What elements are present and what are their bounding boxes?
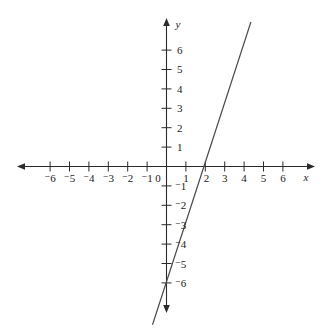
y-axis: [163, 18, 170, 313]
y-axis-name-label: y: [175, 18, 181, 30]
x-tick-label: ⁻2: [122, 172, 133, 184]
origin-label: 0: [155, 172, 161, 184]
x-tick-label: ⁻1: [141, 172, 152, 184]
y-tick-label: 6: [177, 44, 183, 56]
y-tick-label: ⁻1: [175, 180, 186, 192]
y-axis-top-arrow-icon: [163, 18, 170, 26]
line-y-equals-3x-minus-6: [153, 22, 251, 325]
x-axis-name-label: x: [303, 171, 309, 183]
x-tick-label: 3: [222, 172, 228, 184]
x-tick-label: 6: [280, 172, 286, 184]
x-tick-label: ⁻5: [64, 172, 76, 184]
y-tick-label: 4: [177, 83, 183, 95]
x-axis-tick-labels: ⁻6 ⁻5 ⁻4 ⁻3 ⁻2 ⁻1 1 2 3 4 5 6: [44, 172, 286, 184]
x-tick-label: 4: [241, 172, 247, 184]
x-tick-label: ⁻6: [44, 172, 56, 184]
coordinate-plane-graph: ⁻6 ⁻5 ⁻4 ⁻3 ⁻2 ⁻1 1 2 3 4 5 6 6 5 4 3 2 …: [0, 0, 326, 331]
y-tick-label: ⁻5: [175, 258, 187, 270]
y-tick-label: ⁻4: [175, 238, 187, 250]
plotted-line-series: [153, 22, 251, 325]
x-tick-label: ⁻4: [83, 172, 95, 184]
y-tick-label: ⁻2: [175, 199, 186, 211]
graph-canvas: ⁻6 ⁻5 ⁻4 ⁻3 ⁻2 ⁻1 1 2 3 4 5 6 6 5 4 3 2 …: [0, 0, 326, 331]
y-tick-label: ⁻6: [175, 277, 187, 289]
x-tick-label: ⁻3: [103, 172, 115, 184]
y-tick-label: 1: [177, 141, 183, 153]
y-tick-label: 5: [177, 63, 183, 75]
y-tick-label: 3: [177, 102, 183, 114]
y-tick-label: ⁻3: [175, 219, 187, 231]
x-tick-label: 2: [204, 172, 210, 184]
y-tick-label: 2: [177, 122, 183, 134]
x-axis-left-arrow-icon: [17, 163, 25, 170]
x-tick-label: 5: [261, 172, 267, 184]
y-axis-bottom-arrow-icon: [163, 305, 170, 313]
x-axis-right-arrow-icon: [307, 163, 315, 170]
